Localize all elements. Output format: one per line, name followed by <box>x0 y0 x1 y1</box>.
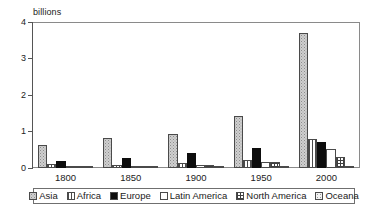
bar-africa-2000 <box>308 139 317 168</box>
y-tick-label: 1 <box>4 127 26 136</box>
legend-item-north-america[interactable]: North America <box>236 191 306 201</box>
y-tick-mark <box>28 131 32 132</box>
y-tick-label: 3 <box>4 54 26 63</box>
y-tick-mark <box>28 168 32 169</box>
y-tick-label: 0 <box>4 164 26 173</box>
legend-label: Latin America <box>170 191 228 201</box>
bar-europe-1850 <box>122 158 131 168</box>
legend-item-asia[interactable]: Asia <box>29 191 57 201</box>
bar-latin-america-1800 <box>66 166 75 168</box>
bar-group-1850 <box>98 23 163 168</box>
bar-north-america-1900 <box>205 165 214 168</box>
population-bar-chart: billions 4 3 2 1 0 18001850190019502000 … <box>0 0 383 212</box>
bar-europe-2000 <box>317 142 326 168</box>
bar-oceana-1850 <box>149 166 158 168</box>
legend-label: Europe <box>120 191 151 201</box>
bar-latin-america-1850 <box>131 166 140 168</box>
legend-swatch-icon <box>236 192 244 200</box>
bar-north-america-1850 <box>140 166 149 168</box>
x-tick-label-1850: 1850 <box>101 172 161 183</box>
legend-item-europe[interactable]: Europe <box>110 191 151 201</box>
legend-swatch-icon <box>160 192 168 200</box>
bar-latin-america-1950 <box>261 162 270 168</box>
bar-group-1900 <box>163 23 228 168</box>
y-tick-label: 2 <box>4 91 26 100</box>
legend-item-latin-america[interactable]: Latin America <box>160 191 228 201</box>
bar-asia-1850 <box>103 138 112 168</box>
bar-europe-1800 <box>56 161 65 168</box>
y-tick-mark <box>28 58 32 59</box>
bar-asia-2000 <box>299 33 308 168</box>
bar-asia-1900 <box>168 134 177 168</box>
bar-latin-america-1900 <box>196 165 205 168</box>
x-tick-label-2000: 2000 <box>296 172 356 183</box>
legend-swatch-icon <box>29 192 37 200</box>
bar-africa-1800 <box>47 164 56 168</box>
x-tick-label-1800: 1800 <box>36 172 96 183</box>
bar-latin-america-2000 <box>326 149 335 168</box>
legend-item-africa[interactable]: Africa <box>67 191 101 201</box>
x-tick-label-1900: 1900 <box>166 172 226 183</box>
chart-legend: AsiaAfricaEuropeLatin AmericaNorth Ameri… <box>33 188 355 204</box>
bar-north-america-1800 <box>75 166 84 168</box>
legend-label: Oceana <box>325 191 358 201</box>
y-axis-tick-group: 4 3 2 1 0 <box>0 0 26 212</box>
legend-label: North America <box>246 191 306 201</box>
bar-group-1950 <box>229 23 294 168</box>
bar-africa-1900 <box>178 163 187 168</box>
bar-oceana-1900 <box>214 166 223 168</box>
bar-asia-1800 <box>38 145 47 168</box>
bar-africa-1850 <box>112 165 121 168</box>
x-tick-label-1950: 1950 <box>231 172 291 183</box>
y-tick-label: 4 <box>4 18 26 27</box>
bar-group-1800 <box>33 23 98 168</box>
legend-swatch-icon <box>315 192 323 200</box>
bar-oceana-1950 <box>280 166 289 168</box>
bar-africa-1950 <box>243 160 252 168</box>
y-tick-mark <box>28 22 32 23</box>
bar-oceana-2000 <box>345 166 354 168</box>
legend-label: Asia <box>39 191 57 201</box>
y-tick-mark <box>28 95 32 96</box>
bar-europe-1950 <box>252 148 261 168</box>
bar-group-2000 <box>294 23 359 168</box>
legend-item-oceana[interactable]: Oceana <box>315 191 358 201</box>
bar-north-america-1950 <box>270 162 279 168</box>
bar-asia-1950 <box>234 116 243 168</box>
bar-north-america-2000 <box>336 157 345 168</box>
legend-label: Africa <box>77 191 101 201</box>
legend-swatch-icon <box>67 192 75 200</box>
bars-layer <box>33 23 359 168</box>
bar-europe-1900 <box>187 153 196 168</box>
bar-oceana-1800 <box>84 166 93 168</box>
legend-swatch-icon <box>110 192 118 200</box>
y-axis-unit-label: billions <box>33 7 61 17</box>
